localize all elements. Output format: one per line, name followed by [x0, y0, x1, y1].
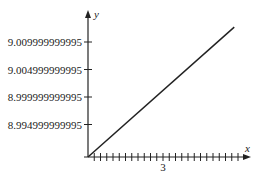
y-tick-label: 9.009999999995: [8, 36, 83, 48]
x-axis-label: x: [244, 142, 250, 154]
y-tick-label: 9.004999999995: [8, 64, 83, 76]
data-line: [88, 27, 234, 157]
y-tick-label: 8.994999999995: [8, 119, 83, 131]
line-chart: 9.009999999995 9.004999999995 8.99999999…: [0, 0, 262, 179]
y-tick-label: 8.999999999995: [8, 91, 83, 103]
x-tick-label: 3: [160, 161, 166, 173]
y-axis-label: y: [93, 8, 99, 20]
x-axis-arrow-icon: [243, 154, 251, 160]
y-axis-arrow-icon: [85, 10, 91, 18]
